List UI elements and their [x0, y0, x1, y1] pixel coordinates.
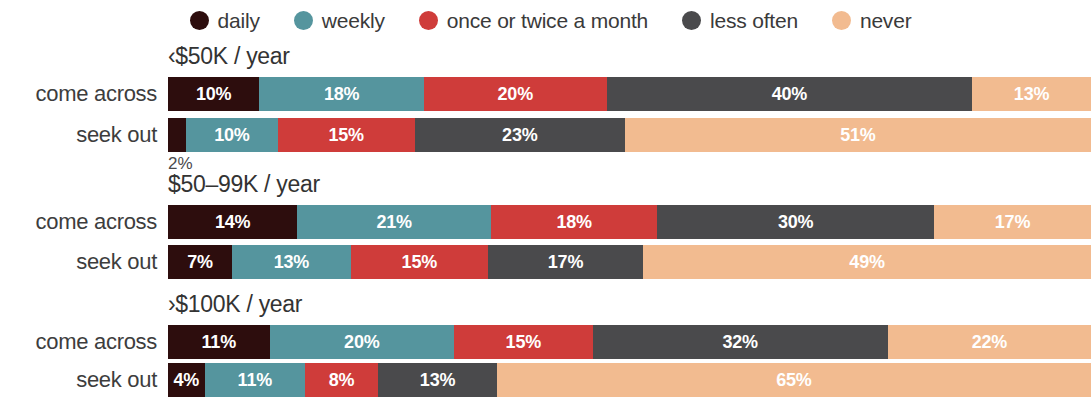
bar-segment[interactable]: 18% [259, 77, 423, 111]
circle-swatch-icon [419, 11, 438, 30]
circle-swatch-icon [190, 11, 209, 30]
chart-row: come across14%21%18%30%17% [0, 205, 1091, 239]
bar-segment[interactable]: 17% [488, 245, 643, 279]
stacked-bar: 2%10%15%23%51% [168, 118, 1091, 152]
bar-segment[interactable]: 22% [888, 325, 1091, 359]
bar-segment[interactable]: 32% [593, 325, 888, 359]
bar-segment[interactable]: 11% [205, 363, 306, 397]
row-label: come across [0, 77, 157, 111]
row-label: seek out [0, 245, 157, 279]
circle-swatch-icon [832, 11, 851, 30]
chart-row: seek out7%13%15%17%49% [0, 245, 1091, 279]
legend-label: weekly [322, 10, 385, 31]
bar-segment[interactable]: 40% [607, 77, 973, 111]
legend-label: daily [218, 10, 260, 31]
circle-swatch-icon [294, 11, 313, 30]
bar-segment[interactable]: 13% [378, 363, 497, 397]
bar-segment[interactable]: 8% [305, 363, 378, 397]
legend-item[interactable]: less often [682, 10, 798, 31]
bar-segment[interactable]: 14% [168, 205, 297, 239]
row-label: seek out [0, 118, 157, 152]
bar-segment[interactable]: 13% [972, 77, 1091, 111]
bar-segment[interactable]: 10% [186, 118, 277, 152]
legend-item[interactable]: never [832, 10, 912, 31]
stacked-bar: 7%13%15%17%49% [168, 245, 1091, 279]
chart-plot-area: ‹$50K / yearcome across10%18%20%40%13%se… [0, 40, 1091, 400]
bar-segment[interactable]: 15% [454, 325, 592, 359]
chart-row: seek out4%11%8%13%65% [0, 363, 1091, 397]
row-label: come across [0, 205, 157, 239]
chart-legend: dailyweeklyonce or twice a monthless oft… [0, 0, 1091, 40]
outside-value-label: 2% [168, 155, 193, 172]
row-label: come across [0, 325, 157, 359]
legend-item[interactable]: once or twice a month [419, 10, 648, 31]
bar-segment[interactable]: 21% [297, 205, 491, 239]
bar-segment[interactable]: 4% [168, 363, 205, 397]
bar-segment[interactable]: 49% [643, 245, 1091, 279]
income-group: ›$100K / yearcome across11%20%15%32%22%s… [0, 293, 1091, 400]
chart-row: come across11%20%15%32%22% [0, 325, 1091, 359]
bar-segment[interactable]: 15% [278, 118, 415, 152]
bar-segment[interactable]: 18% [491, 205, 657, 239]
bar-segment[interactable]: 51% [625, 118, 1091, 152]
legend-item[interactable]: weekly [294, 10, 385, 31]
stacked-bar: 14%21%18%30%17% [168, 205, 1091, 239]
group-title: ‹$50K / year [168, 45, 290, 68]
bar-segment[interactable]: 11% [168, 325, 270, 359]
income-group: $50–99K / yearcome across14%21%18%30%17%… [0, 173, 1091, 288]
circle-swatch-icon [682, 11, 701, 30]
bar-segment[interactable]: 2% [168, 118, 186, 152]
bar-segment[interactable]: 17% [934, 205, 1091, 239]
group-title: ›$100K / year [168, 293, 302, 316]
stacked-bar: 4%11%8%13%65% [168, 363, 1091, 397]
legend-label: less often [710, 10, 798, 31]
chart-row: seek out2%10%15%23%51% [0, 118, 1091, 152]
bar-segment[interactable]: 30% [657, 205, 934, 239]
bar-segment[interactable]: 13% [232, 245, 351, 279]
bar-segment[interactable]: 10% [168, 77, 259, 111]
legend-label: once or twice a month [447, 10, 648, 31]
bar-segment[interactable]: 65% [497, 363, 1091, 397]
chart-row: come across10%18%20%40%13% [0, 77, 1091, 111]
stacked-bar: 10%18%20%40%13% [168, 77, 1091, 111]
income-group: ‹$50K / yearcome across10%18%20%40%13%se… [0, 45, 1091, 160]
bar-segment[interactable]: 20% [270, 325, 455, 359]
row-label: seek out [0, 363, 157, 397]
legend-item[interactable]: daily [190, 10, 260, 31]
bar-segment[interactable]: 15% [351, 245, 488, 279]
bar-segment[interactable]: 7% [168, 245, 232, 279]
bar-segment[interactable]: 20% [424, 77, 607, 111]
stacked-bar: 11%20%15%32%22% [168, 325, 1091, 359]
legend-label: never [860, 10, 912, 31]
bar-segment[interactable]: 23% [415, 118, 625, 152]
group-title: $50–99K / year [168, 173, 320, 196]
stacked-bar-chart: dailyweeklyonce or twice a monthless oft… [0, 0, 1091, 400]
